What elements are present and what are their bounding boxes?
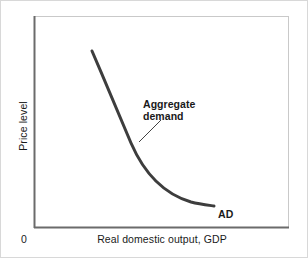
curve-end-label: AD <box>218 208 234 220</box>
callout-line-2: demand <box>143 110 195 122</box>
y-axis-title: Price level <box>17 101 29 151</box>
callout-leader-line <box>139 120 161 142</box>
callout-line-1: Aggregate <box>143 98 195 110</box>
x-axis-title: Real domestic output, GDP <box>97 233 227 245</box>
origin-label: 0 <box>21 233 27 245</box>
aggregate-demand-callout: Aggregate demand <box>143 98 195 123</box>
aggregate-demand-figure: Price level Real domestic output, GDP 0 … <box>0 0 308 258</box>
plot-area <box>1 1 308 258</box>
